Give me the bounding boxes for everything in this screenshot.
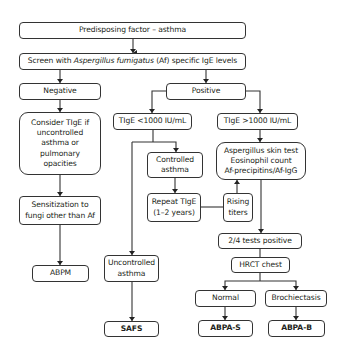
- node-label-line: Sensitization to: [31, 200, 88, 210]
- node-repeat-tige: Repeat TIgE (1–2 years): [147, 193, 201, 222]
- node-consider-tige: Consider TIgE if uncontrolled asthma or …: [19, 112, 101, 175]
- node-uncontrolled-asthma: Uncontrolled asthma: [104, 255, 159, 282]
- label-post: (Af) specific IgE levels: [154, 56, 237, 65]
- node-label-line: asthma: [161, 165, 189, 175]
- node-label-line: pulmonary: [40, 149, 80, 159]
- node-positive: Positive: [166, 83, 246, 100]
- node-label: 2/4 tests positive: [228, 236, 292, 246]
- node-label: Predisposing factor – asthma: [79, 25, 186, 35]
- node-label: Negative: [43, 86, 76, 96]
- node-label-line: Controlled: [156, 155, 194, 165]
- node-label-line: Rising: [227, 197, 250, 207]
- label-pre: Screen with: [28, 56, 74, 65]
- node-abpm: ABPM: [32, 265, 89, 282]
- node-label-line: opacities: [43, 159, 76, 169]
- node-hrct-chest: HRCT chest: [231, 257, 290, 273]
- node-rising-titers: Rising titers: [223, 193, 253, 222]
- node-label: TIgE <1000 IU/mL: [119, 116, 186, 126]
- node-safs: SAFS: [104, 321, 159, 337]
- node-label-line: fungi other than Af: [25, 211, 95, 221]
- node-label: HRCT chest: [239, 260, 282, 270]
- node-screen-af-ige: Screen with Aspergillus fumigatus (Af) s…: [19, 53, 246, 70]
- flowchart: Predisposing factor – asthma Screen with…: [0, 0, 344, 353]
- node-normal: Normal: [195, 290, 256, 307]
- node-label-line: Consider TIgE if: [31, 118, 89, 128]
- node-negative: Negative: [19, 83, 101, 100]
- node-tige-below-1000: TIgE <1000 IU/mL: [113, 113, 192, 130]
- node-label-line: Uncontrolled: [108, 258, 155, 268]
- node-label-line: Af-precipitins/Af-IgG: [225, 166, 298, 176]
- node-label: ABPM: [50, 268, 71, 278]
- node-label-line: asthma or: [41, 138, 79, 148]
- label-italic: Aspergillus fumigatus: [74, 56, 154, 65]
- node-label-line: asthma: [118, 269, 146, 279]
- node-controlled-asthma: Controlled asthma: [147, 152, 203, 178]
- node-label-line: titers: [228, 208, 247, 218]
- node-label: Positive: [192, 86, 220, 96]
- node-label: ABPA-S: [210, 323, 240, 333]
- node-label: Normal: [212, 293, 239, 303]
- node-label-line: Aspergillus skin test: [224, 146, 298, 156]
- node-aspergillus-tests: Aspergillus skin test Eosinophil count A…: [216, 142, 306, 180]
- node-label: Brochiectasis: [271, 293, 320, 303]
- node-label-line: uncontrolled: [37, 128, 83, 138]
- node-label: Screen with Aspergillus fumigatus (Af) s…: [28, 56, 237, 66]
- node-abpa-b: ABPA-B: [268, 320, 325, 337]
- node-label-line: Eosinophil count: [230, 156, 291, 166]
- node-bronchiectasis: Brochiectasis: [265, 290, 327, 307]
- node-label: SAFS: [121, 324, 143, 334]
- node-abpa-s: ABPA-S: [198, 320, 253, 337]
- node-tige-above-1000: TIgE >1000 IU/mL: [217, 113, 298, 130]
- node-label-line: Repeat TIgE: [152, 197, 197, 207]
- node-label: TIgE >1000 IU/mL: [224, 116, 291, 126]
- node-sensitization: Sensitization to fungi other than Af: [19, 196, 101, 225]
- node-two-of-four-positive: 2/4 tests positive: [218, 233, 302, 249]
- node-predisposing-factor: Predisposing factor – asthma: [19, 22, 246, 39]
- node-label-line: (1–2 years): [153, 208, 195, 218]
- node-label: ABPA-B: [281, 323, 312, 333]
